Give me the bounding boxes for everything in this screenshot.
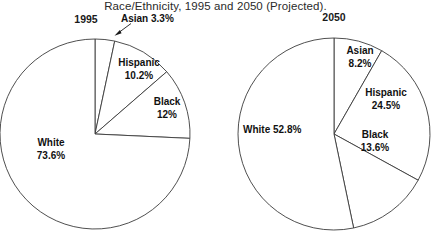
pie-2050-label-asian-pct: 8.2% [339, 58, 381, 71]
pie-1995-label-black-name: Black [154, 96, 181, 107]
pie-2050-year-label: 2050 [310, 11, 358, 23]
pie-2050-label-black-name: Black [362, 129, 389, 140]
pie-1995-label-hispanic-name: Hispanic [118, 57, 160, 68]
pie-2050-label-white: White 52.8% [243, 124, 323, 137]
pie-1995-label-white: White 73.6% [29, 137, 73, 162]
pie-2050-label-asian: Asian 8.2% [339, 45, 381, 70]
pie-chart-figure: Race/Ethnicity, 1995 and 2050 (Projected… [0, 0, 431, 238]
pie-1995-label-black-pct: 12% [146, 109, 188, 122]
pie-1995-year-label: 1995 [62, 13, 110, 25]
pie-1995-label-black: Black 12% [146, 96, 188, 121]
pie-1995-label-white-name: White [37, 137, 64, 148]
pie-2050-label-asian-name: Asian [346, 45, 373, 56]
pie-2050-label-hispanic-name: Hispanic [365, 87, 407, 98]
pie-2050-label-black-pct: 13.6% [354, 142, 396, 155]
pie-2050-label-black: Black 13.6% [354, 129, 396, 154]
pie-2050-label-hispanic: Hispanic 24.5% [355, 87, 417, 112]
pie-1995-label-hispanic: Hispanic 10.2% [110, 57, 168, 82]
pie-1995-label-asian: Asian 3.3% [121, 13, 174, 26]
pie-1995-graphic [0, 0, 431, 238]
pie-2050-label-hispanic-pct: 24.5% [355, 100, 417, 113]
pie-1995-label-hispanic-pct: 10.2% [110, 70, 168, 83]
pie-1995-label-white-pct: 73.6% [29, 150, 73, 163]
